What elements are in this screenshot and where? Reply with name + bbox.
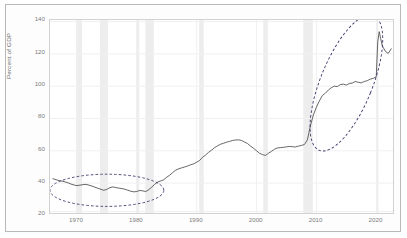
y-tick-20: 20 — [11, 210, 45, 216]
recession-band — [263, 20, 268, 213]
y-axis: Percent of GDP 140 120 100 80 60 40 20 — [6, 19, 45, 214]
y-tick-140: 140 — [11, 16, 45, 22]
y-tick-120: 120 — [11, 49, 45, 55]
y-tick-100: 100 — [11, 81, 45, 87]
chart-canvas — [50, 20, 393, 213]
x-tick-1980: 1980 — [116, 217, 156, 223]
recession-band — [100, 20, 108, 213]
x-tick-1970: 1970 — [56, 217, 96, 223]
y-tick-60: 60 — [11, 146, 45, 152]
x-tick-1990: 1990 — [176, 217, 216, 223]
x-tick-2020: 2020 — [356, 217, 396, 223]
y-tick-40: 40 — [11, 178, 45, 184]
plot-area — [49, 19, 394, 214]
recession-band — [199, 20, 204, 213]
x-axis: 1970 1980 1990 2000 2010 2020 — [49, 217, 394, 229]
x-tick-2010: 2010 — [296, 217, 336, 223]
recession-band — [145, 20, 154, 213]
y-axis-label: Percent of GDP — [5, 0, 12, 79]
chart-screenshot: Percent of GDP 140 120 100 80 60 40 20 — [0, 0, 407, 238]
recession-band — [303, 20, 313, 213]
recession-bands — [76, 20, 378, 213]
y-tick-80: 80 — [11, 113, 45, 119]
chart-frame: Percent of GDP 140 120 100 80 60 40 20 — [5, 4, 401, 232]
x-tick-2000: 2000 — [236, 217, 276, 223]
